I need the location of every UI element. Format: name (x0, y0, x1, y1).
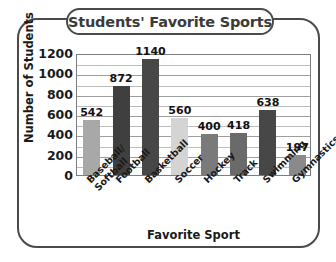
bar-value-label: 638 (252, 97, 284, 108)
y-axis-tick: 0 (64, 170, 73, 182)
chart-title-pill: Students' Favorite Sports (66, 8, 274, 35)
bar-value-label: 1140 (134, 46, 166, 57)
y-axis-tick: 1200 (38, 48, 73, 60)
x-axis-category-labels: Baseball/SoftballFootballBasketballSocce… (76, 176, 311, 228)
y-axis-tick: 1000 (38, 68, 73, 80)
y-axis-tick-labels: 120010008006004002000 (40, 48, 73, 180)
bar-value-label: 560 (164, 105, 196, 116)
x-axis-title: Favorite Sport (76, 228, 311, 242)
y-axis-title: Number of Students (22, 19, 36, 143)
bar-value-label: 542 (76, 107, 108, 118)
bar-value-label: 400 (193, 121, 225, 132)
bar-value-label: 872 (105, 73, 137, 84)
y-axis-tick: 400 (47, 129, 73, 141)
bar-value-label: 418 (223, 120, 255, 131)
y-axis-tick: 200 (47, 150, 73, 162)
chart-title: Students' Favorite Sports (68, 14, 272, 30)
y-axis-tick: 800 (47, 89, 73, 101)
y-axis-tick: 600 (47, 109, 73, 121)
chart-screenshot: Students' Favorite Sports Number of Stud… (0, 0, 336, 262)
